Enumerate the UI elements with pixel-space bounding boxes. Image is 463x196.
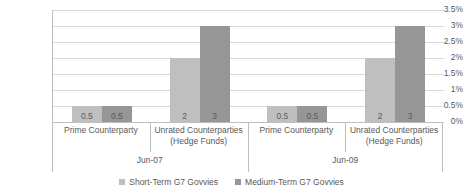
bar: 3 (395, 26, 425, 122)
category-axis: Prime CounterpartyUnrated Counterparties… (52, 122, 443, 152)
legend-item[interactable]: Medium-Term G7 Govvies (235, 177, 344, 187)
gridline (53, 42, 444, 43)
legend-swatch-icon (235, 179, 241, 185)
category-label-line1: Prime Counterparty (64, 125, 138, 135)
bar-chart: 3.5%3%2.5%2%1.5%1%0.5%0% 0.50.5230.50.52… (0, 0, 463, 196)
category-separator (150, 122, 151, 152)
chart-legend: Short-Term G7 GovviesMedium-Term G7 Govv… (0, 174, 463, 190)
bar: 2 (170, 58, 200, 122)
plot-area: 0.50.5230.50.523 (52, 10, 443, 122)
bar-value-label: 3 (395, 111, 425, 121)
group-axis: Jun-07Jun-09 (52, 152, 443, 172)
bar-value-label: 0.5 (72, 111, 102, 121)
gridline (53, 26, 444, 27)
category-label-line1: Unrated Counterparties (154, 125, 242, 135)
bar-value-label: 0.5 (297, 111, 327, 121)
category-separator (248, 122, 249, 152)
category-label: Unrated Counterparties(Hedge Funds) (150, 122, 248, 152)
bar-value-label: 2 (170, 111, 200, 121)
category-label-line1: Prime Counterparty (260, 125, 334, 135)
legend-label: Short-Term G7 Govvies (129, 177, 218, 187)
bar-value-label: 0.5 (102, 111, 132, 121)
bar: 2 (365, 58, 395, 122)
bar-value-label: 2 (365, 111, 395, 121)
group-separator (248, 152, 249, 172)
category-label-line2: (Hedge Funds) (345, 136, 443, 147)
bar: 0.5 (102, 106, 132, 122)
group-label: Jun-07 (52, 152, 248, 172)
category-label-line2: (Hedge Funds) (150, 136, 248, 147)
bar-value-label: 3 (200, 111, 230, 121)
category-label: Prime Counterparty (248, 122, 346, 152)
bar: 0.5 (267, 106, 297, 122)
legend-swatch-icon (119, 179, 125, 185)
gridline (53, 10, 444, 11)
legend-label: Medium-Term G7 Govvies (245, 177, 344, 187)
bar: 0.5 (72, 106, 102, 122)
legend-item[interactable]: Short-Term G7 Govvies (119, 177, 218, 187)
category-label: Unrated Counterparties(Hedge Funds) (345, 122, 443, 152)
bar: 3 (200, 26, 230, 122)
category-label-line1: Unrated Counterparties (350, 125, 438, 135)
category-separator (345, 122, 346, 152)
bar: 0.5 (297, 106, 327, 122)
category-label: Prime Counterparty (52, 122, 150, 152)
group-label: Jun-09 (248, 152, 444, 172)
bar-value-label: 0.5 (267, 111, 297, 121)
